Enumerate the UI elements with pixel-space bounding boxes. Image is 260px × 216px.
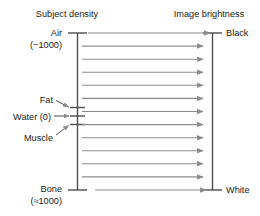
header-subject-density: Subject density (36, 9, 99, 19)
label-bone: Bone (41, 184, 62, 194)
leader-fat-icon (56, 101, 69, 108)
density-to-brightness-diagram: Subject density Image brightness Air (−1… (0, 0, 260, 216)
label-water: Water (0) (13, 112, 51, 122)
label-air-value: (−1000) (30, 40, 62, 50)
image-brightness-axis (203, 33, 222, 190)
label-white: White (226, 185, 250, 195)
label-bone-value: (≈1000) (30, 196, 62, 206)
leader-muscle-icon (56, 126, 69, 136)
label-muscle: Muscle (24, 133, 53, 143)
label-fat: Fat (40, 95, 54, 105)
label-black: Black (226, 28, 249, 38)
header-image-brightness: Image brightness (174, 9, 245, 19)
mapping-arrow-group (82, 33, 210, 190)
label-air: Air (51, 28, 62, 38)
